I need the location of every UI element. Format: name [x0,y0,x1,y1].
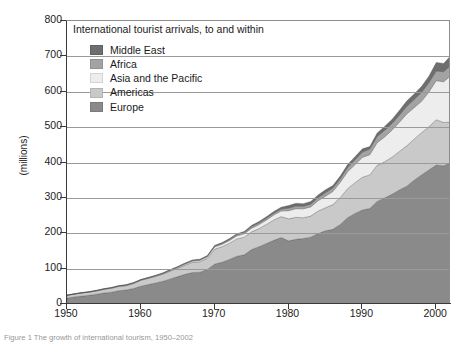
y-axis-ticks: 0100200300400500600700800 [0,0,62,342]
y-tick-label: 400 [28,156,62,167]
legend-item-asia-and-the-pacific: Asia and the Pacific [90,71,202,85]
y-tick-label: 300 [28,191,62,202]
chart-legend: Middle EastAfricaAsia and the PacificAme… [90,43,202,114]
y-tick-label: 0 [28,297,62,308]
legend-label: Africa [110,59,137,70]
legend-item-middle-east: Middle East [90,43,202,57]
x-tick-mark [140,303,141,309]
figure-caption: Figure 1 The growth of international tou… [4,333,193,342]
legend-label: Europe [110,102,144,113]
y-tick-label: 200 [28,226,62,237]
legend-swatch-icon [90,102,103,112]
y-tick-label: 700 [28,49,62,60]
y-tick-label: 500 [28,120,62,131]
legend-label: Americas [110,87,154,98]
gridline [67,127,449,128]
tourism-area-chart: (millions) 0100200300400500600700800 195… [0,0,458,342]
legend-label: Asia and the Pacific [110,73,202,84]
gridline [67,198,449,199]
x-tick-label: 1990 [341,308,381,319]
legend-swatch-icon [90,45,103,55]
chart-title: International tourist arrivals, to and w… [73,23,264,35]
x-tick-mark [435,303,436,309]
x-tick-label: 1970 [194,308,234,319]
y-tick-label: 800 [28,14,62,25]
legend-item-americas: Americas [90,86,202,100]
gridline [67,163,449,164]
legend-item-europe: Europe [90,100,202,114]
y-tick-label: 100 [28,262,62,273]
gridline [67,269,449,270]
x-tick-mark [214,303,215,309]
x-tick-mark [361,303,362,309]
x-tick-mark [66,303,67,309]
gridline [67,233,449,234]
x-tick-label: 2000 [415,308,455,319]
legend-label: Middle East [110,45,165,56]
x-axis-line [66,303,451,304]
legend-item-africa: Africa [90,57,202,71]
x-tick-label: 1980 [268,308,308,319]
legend-swatch-icon [90,59,103,69]
x-tick-mark [288,303,289,309]
x-tick-label: 1960 [120,308,160,319]
legend-swatch-icon [90,73,103,83]
legend-swatch-icon [90,88,103,98]
y-tick-label: 600 [28,85,62,96]
x-tick-label: 1950 [46,308,86,319]
